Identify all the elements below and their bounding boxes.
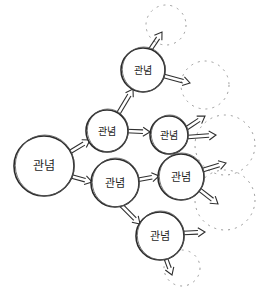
arrow-head-icon: [209, 131, 216, 140]
node-label: 관념: [171, 171, 191, 184]
concept-nodes: 관념관념관념관념관념관념관념: [14, 47, 204, 260]
node-label: 관념: [160, 130, 178, 141]
arrow-head-icon: [198, 228, 205, 237]
concept-node-b: 관념: [121, 47, 165, 92]
arrow-b-to-g2: [164, 74, 190, 85]
arrow-d-to-e: [137, 173, 159, 182]
arrow-a-to-b: [116, 89, 133, 115]
arrow-c-to-g3b: [188, 131, 216, 140]
concept-node-f: 관념: [136, 211, 184, 260]
arrow-a-to-c: [126, 127, 150, 136]
arrow-f-to-g5: [183, 228, 205, 237]
node-label: 관념: [134, 65, 152, 76]
ghost-node-g3: [195, 115, 255, 175]
concept-node-d: 관념: [91, 158, 139, 207]
ghost-node-g2: [181, 61, 229, 109]
node-label: 관념: [105, 177, 125, 190]
arrow-head-icon: [218, 161, 226, 170]
arrow-head-icon: [165, 267, 173, 275]
arrow-head-icon: [143, 127, 150, 136]
node-label: 관념: [150, 230, 170, 243]
concept-node-c: 관념: [150, 115, 188, 154]
concept-node-a: 관념: [86, 109, 128, 152]
node-label: 관념: [33, 159, 55, 173]
node-label: 관념: [98, 126, 116, 137]
arrow-root-to-a: [69, 140, 90, 154]
concept-diagram: 관념관념관념관념관념관념관념: [0, 0, 259, 299]
arrow-e-to-g4b: [199, 189, 218, 204]
arrow-head-icon: [210, 196, 218, 204]
arrow-c-to-g3: [186, 116, 205, 129]
arrow-e-to-g4: [202, 161, 226, 172]
arrow-head-icon: [182, 77, 190, 86]
concept-node-e: 관념: [158, 153, 204, 200]
ghost-node-g1: [146, 5, 186, 45]
concept-node-root: 관념: [14, 135, 74, 196]
